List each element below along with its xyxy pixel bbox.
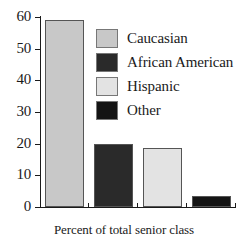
y-axis-tick	[35, 112, 40, 113]
y-axis-tick	[35, 49, 40, 50]
y-axis-tick	[35, 80, 40, 81]
y-axis-tick-label: 0	[0, 199, 31, 214]
x-axis-tick	[235, 203, 236, 208]
y-axis-tick-label: 20	[0, 136, 31, 151]
y-axis-tick-label: 40	[0, 72, 31, 87]
bar	[45, 20, 84, 207]
legend-label: African American	[127, 55, 233, 70]
y-axis-tick-label: 10	[0, 167, 31, 182]
x-axis-line	[40, 207, 236, 208]
legend-label: Hispanic	[127, 79, 180, 94]
legend-swatch-icon	[96, 29, 118, 48]
bar	[143, 148, 182, 207]
legend-item: Other	[96, 98, 246, 122]
x-axis-tick	[88, 203, 89, 208]
bar-chart: 0102030405060 CaucasianAfrican AmericanH…	[0, 0, 248, 251]
legend-swatch-icon	[96, 53, 118, 72]
legend-label: Other	[127, 103, 161, 118]
bar	[94, 144, 133, 207]
chart-legend: CaucasianAfrican AmericanHispanicOther	[96, 26, 246, 122]
legend-item: African American	[96, 50, 246, 74]
legend-label: Caucasian	[127, 31, 188, 46]
y-axis-tick	[35, 17, 40, 18]
x-axis-label: Percent of total senior class	[0, 223, 248, 237]
y-axis-tick-label: 60	[0, 9, 31, 24]
legend-swatch-icon	[96, 101, 118, 120]
y-axis-tick	[35, 207, 40, 208]
legend-item: Caucasian	[96, 26, 246, 50]
x-axis-tick	[186, 203, 187, 208]
legend-item: Hispanic	[96, 74, 246, 98]
y-axis-tick-label: 50	[0, 41, 31, 56]
y-axis-tick	[35, 175, 40, 176]
x-axis-tick	[137, 203, 138, 208]
y-axis-tick-label: 30	[0, 104, 31, 119]
y-axis-line	[40, 16, 41, 208]
bar	[192, 196, 231, 207]
y-axis-tick	[35, 144, 40, 145]
legend-swatch-icon	[96, 77, 118, 96]
